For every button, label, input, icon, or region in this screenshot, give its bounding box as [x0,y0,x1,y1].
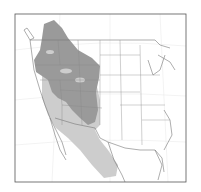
range-map [0,0,201,192]
